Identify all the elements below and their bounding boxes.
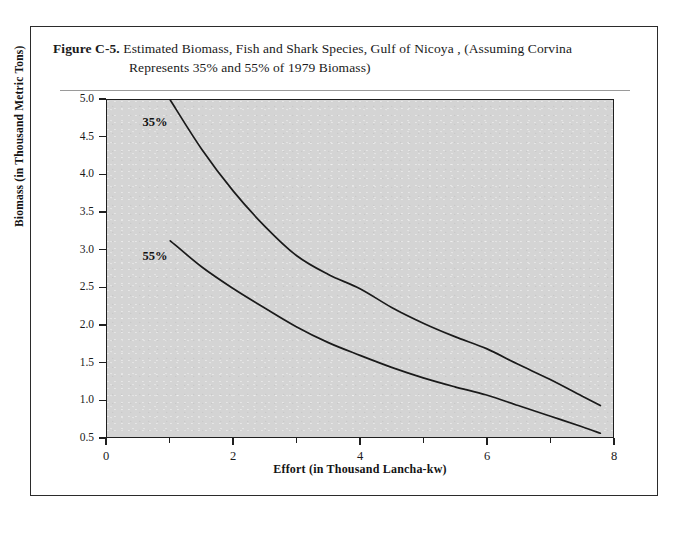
x-tick-label: 8: [601, 449, 627, 464]
y-tick-label: 2.5: [64, 280, 94, 292]
y-tick-label: 0.5: [64, 431, 94, 443]
y-tick-mark: [99, 136, 106, 137]
caption-text-line-2: Represents 35% and 55% of 1979 Biomass): [53, 58, 633, 77]
x-tick-mark: [232, 438, 233, 445]
x-tick-label: 2: [220, 449, 246, 464]
series-curve-55pct: [170, 241, 600, 433]
y-tick-label: 4.5: [64, 130, 94, 142]
x-minor-tick-mark: [169, 438, 170, 443]
series-annotation-35pct: 35%: [143, 115, 168, 130]
figure-frame: Figure C-5. Estimated Biomass, Fish and …: [30, 26, 658, 496]
x-tick-label: 6: [474, 449, 500, 464]
y-tick-mark: [99, 362, 106, 363]
y-tick-label: 1.5: [64, 356, 94, 368]
y-tick-label: 1.0: [64, 393, 94, 405]
x-minor-tick-mark: [296, 438, 297, 443]
y-tick-mark: [99, 400, 106, 401]
series-annotation-55pct: 55%: [143, 249, 168, 264]
y-tick-mark: [99, 174, 106, 175]
x-minor-tick-mark: [423, 438, 424, 443]
y-tick-mark: [99, 287, 106, 288]
y-tick-label: 2.0: [64, 318, 94, 330]
x-axis-title: Effort (in Thousand Lancha-kw): [106, 462, 614, 477]
x-tick-mark: [105, 438, 106, 445]
figure-number-label: Figure C-5.: [53, 41, 120, 56]
series-curve-35pct: [170, 100, 600, 406]
x-tick-mark: [359, 438, 360, 445]
x-tick-label: 4: [347, 449, 373, 464]
caption-line-1: Figure C-5. Estimated Biomass, Fish and …: [53, 39, 633, 58]
y-tick-label: 5.0: [64, 92, 94, 104]
x-tick-mark: [486, 438, 487, 445]
x-tick-mark: [613, 438, 614, 445]
figure-caption: Figure C-5. Estimated Biomass, Fish and …: [53, 39, 633, 77]
y-tick-label: 3.5: [64, 205, 94, 217]
y-tick-mark: [99, 324, 106, 325]
y-tick-label: 3.0: [64, 243, 94, 255]
caption-text-line-1: Estimated Biomass, Fish and Shark Specie…: [123, 41, 572, 56]
y-tick-mark: [99, 211, 106, 212]
y-tick-label: 4.0: [64, 167, 94, 179]
x-minor-tick-mark: [550, 438, 551, 443]
plot-area: [106, 99, 614, 438]
y-axis-title: Biomass (in Thousand Metric Tons): [13, 46, 25, 228]
y-tick-mark: [99, 98, 106, 99]
caption-divider: [60, 90, 630, 91]
y-tick-mark: [99, 249, 106, 250]
curves-layer: [107, 100, 613, 437]
x-tick-label: 0: [93, 449, 119, 464]
